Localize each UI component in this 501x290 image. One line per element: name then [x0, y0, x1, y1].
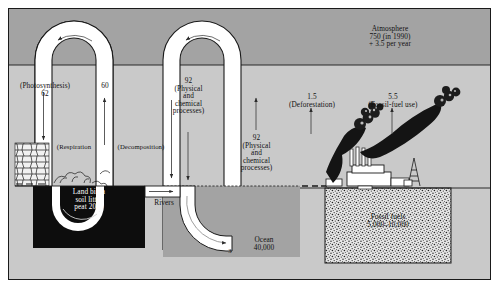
- flux-60-label: 60: [92, 82, 118, 90]
- decomposition-label: (Decomposition): [103, 144, 179, 151]
- fossil-fuel-use-label: 5.5 (Fossil-fuel use): [355, 93, 431, 108]
- atmosphere-label: Atmosphere 750 (in 1990) + 3.5 per year: [342, 25, 438, 48]
- carbon-cycle-figure: Atmosphere 750 (in 1990) + 3.5 per year …: [0, 0, 501, 290]
- fossil-fuels-label: Fossil fuels 5,000–10,000: [336, 213, 440, 228]
- rivers-connector: [145, 186, 180, 197]
- deforestation-label: 1.5 (Deforestation): [277, 93, 347, 108]
- land-biota-label: Land biota soil litter peat 2000: [41, 188, 137, 211]
- respiration-label: (Respiration: [42, 144, 106, 151]
- photosynthesis-label: (Photosynthesis) 62: [10, 82, 80, 97]
- ocean-release-label: 92 (Physical and chemical processes): [232, 134, 281, 172]
- ocean-label: Ocean 40,000: [240, 236, 288, 251]
- ocean-uptake-label: 92 (Physical and chemical processes): [164, 77, 213, 115]
- rivers-flux-label: 3: [224, 248, 236, 255]
- rivers-label: Rivers: [146, 199, 182, 207]
